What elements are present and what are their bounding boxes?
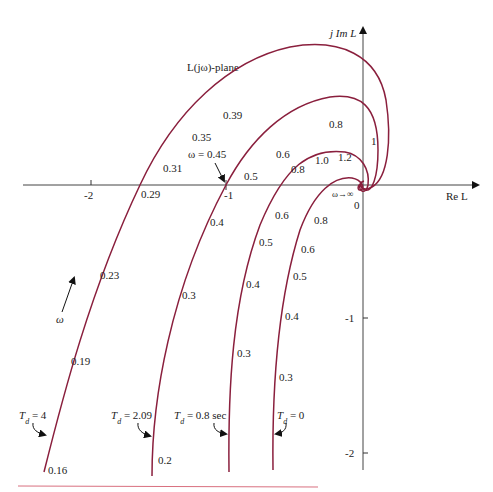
y-axis-label: j Im L <box>328 27 356 39</box>
nyquist-diagram: -2 -1 -1 -2 Re L j Im L 0 ω→∞ L(jω)-plan… <box>0 0 493 492</box>
freq-label: 1.2 <box>338 151 352 163</box>
freq-label: 0.5 <box>259 236 273 248</box>
infinity-label: ω→∞ <box>332 189 353 199</box>
freq-label: 0.5 <box>293 270 307 282</box>
freq-label: 0.3 <box>182 289 196 301</box>
freq-label: 0.8 <box>291 163 305 175</box>
td-4-arrow-icon <box>33 423 45 435</box>
x-tick-label-minus-1: -1 <box>224 189 233 201</box>
freq-label: 0.29 <box>141 188 161 200</box>
freq-label: 0.23 <box>100 269 120 281</box>
freq-label: 0.8 <box>314 214 328 226</box>
freq-label: 1.0 <box>315 154 329 166</box>
freq-label: 0.4 <box>285 310 299 322</box>
omega-045-arrow-icon <box>215 163 224 181</box>
td-2.09-arrow-icon <box>138 423 150 436</box>
td-0-label: Td = 0 <box>277 409 305 426</box>
curve-td-4 <box>44 45 389 472</box>
freq-label: 0.16 <box>48 464 68 476</box>
freq-label: 0.2 <box>158 454 172 466</box>
td-0.8-arrow-icon <box>214 423 226 434</box>
freq-label: 0.31 <box>163 162 182 174</box>
y-tick-label-minus-2: -2 <box>345 447 354 459</box>
freq-label: 1 <box>371 135 377 147</box>
freq-label: 0.35 <box>192 131 212 143</box>
y-tick-label-minus-1: -1 <box>345 312 354 324</box>
td-0.8-label: Td = 0.8 sec <box>174 409 226 426</box>
omega-label: ω <box>56 313 64 325</box>
freq-label: 0.3 <box>279 371 293 383</box>
freq-label: 0.4 <box>210 216 224 228</box>
freq-label: 0.6 <box>276 148 290 160</box>
bottom-rule <box>18 486 318 487</box>
origin-label: 0 <box>354 199 360 211</box>
x-tick-label-minus-2: -2 <box>84 189 93 201</box>
freq-label: 0.6 <box>301 243 315 255</box>
omega-direction-arrow-icon <box>62 278 74 312</box>
freq-label: 0.39 <box>223 109 243 121</box>
freq-label: 0.4 <box>246 278 260 290</box>
freq-label: 0.5 <box>244 170 258 182</box>
omega-045-label: ω = 0.45 <box>188 148 227 160</box>
freq-label: 0.3 <box>237 347 251 359</box>
x-axis-label: Re L <box>446 190 468 202</box>
freq-label: 0.8 <box>329 118 343 130</box>
freq-label: 0.6 <box>275 209 289 221</box>
freq-label: 0.19 <box>71 355 91 367</box>
td-2.09-label: Td = 2.09 <box>111 409 153 426</box>
